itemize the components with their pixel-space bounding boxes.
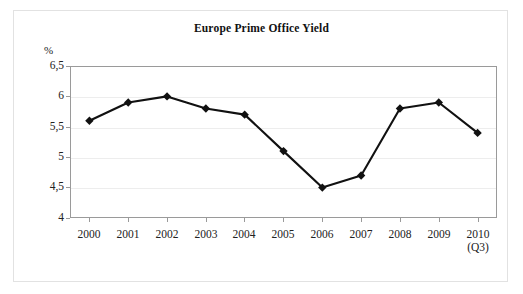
y-tick-mark-5-5: [66, 127, 70, 128]
y-tick-label-5: 5: [24, 151, 64, 163]
y-tick-label-6: 6: [24, 90, 64, 102]
y-tick-mark-6-5: [66, 66, 70, 67]
x-tick-mark-2004: [244, 218, 245, 222]
chart-title: Europe Prime Office Yield: [0, 22, 523, 34]
x-tick-label-2010: 2010 (Q3): [453, 228, 503, 254]
x-tick-label-2010-quarter: (Q3): [453, 241, 503, 254]
x-tick-mark-2010: [478, 218, 479, 222]
y-tick-label-4-5: 4,5: [24, 181, 64, 193]
y-tick-mark-4: [66, 218, 70, 219]
x-tick-label-2010-year: 2010: [467, 228, 490, 240]
y-tick-mark-4-5: [66, 187, 70, 188]
x-tick-mark-2002: [167, 218, 168, 222]
y-tick-label-6-5: 6,5: [24, 60, 64, 72]
y-tick-mark-5: [66, 157, 70, 158]
x-tick-mark-2006: [322, 218, 323, 222]
x-tick-mark-2005: [283, 218, 284, 222]
x-tick-mark-2003: [206, 218, 207, 222]
y-axis-unit-label: %: [44, 44, 53, 56]
y-tick-mark-6: [66, 96, 70, 97]
y-tick-label-5-5: 5,5: [24, 121, 64, 133]
gridline-5-5: [71, 128, 496, 129]
x-tick-mark-2008: [400, 218, 401, 222]
y-tick-label-4: 4: [24, 212, 64, 224]
x-tick-mark-2007: [361, 218, 362, 222]
chart-figure: Europe Prime Office Yield % 6,5 6 5,5 5 …: [0, 0, 523, 294]
x-tick-mark-2000: [89, 218, 90, 222]
gridline-5: [71, 158, 496, 159]
plot-area: [70, 66, 497, 218]
x-tick-mark-2001: [128, 218, 129, 222]
gridline-4-5: [71, 188, 496, 189]
x-tick-mark-2009: [439, 218, 440, 222]
gridline-6: [71, 97, 496, 98]
